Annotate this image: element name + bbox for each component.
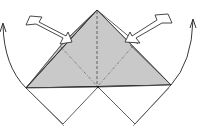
origami-diagram: origami-fold-step (0, 0, 206, 134)
left-bottom-flap (26, 87, 98, 124)
fold-arrow-right (171, 19, 196, 85)
push-arrow-left (26, 16, 72, 44)
fold-arrow-left (0, 23, 26, 88)
right-bottom-flap (98, 85, 171, 124)
center-point (97, 86, 99, 88)
push-arrow-right (125, 14, 172, 43)
front-triangle (26, 10, 171, 88)
diagram-canvas (0, 0, 206, 134)
